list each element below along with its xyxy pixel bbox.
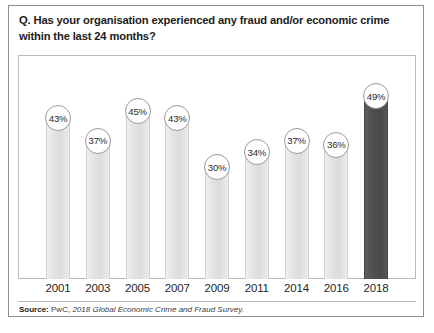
- bar-2011: [245, 152, 269, 279]
- bar-group: 37%: [276, 55, 318, 279]
- source-divider: [18, 301, 416, 302]
- axis-label-2001: 2001: [37, 282, 79, 294]
- value-bubble-2003: 37%: [85, 128, 111, 154]
- bar-2005: [126, 111, 150, 279]
- value-bubble-2011: 34%: [244, 139, 270, 165]
- bar-group: 43%: [37, 55, 79, 279]
- bar-2014: [285, 141, 309, 279]
- bar-group: 36%: [315, 55, 357, 279]
- bar-2007: [165, 118, 189, 279]
- axis-label-2009: 2009: [196, 282, 238, 294]
- source-label: Source:: [19, 305, 49, 314]
- bar-2018: [364, 96, 388, 279]
- value-bubble-2018: 49%: [363, 83, 389, 109]
- x-axis-labels: 200120032005200720092011201420162018: [18, 282, 416, 300]
- bars-layer: 43%37%45%43%30%34%37%36%49%: [18, 55, 416, 279]
- bar-2003: [86, 141, 110, 279]
- bar-2016: [324, 145, 348, 279]
- bar-group: 49%: [355, 55, 397, 279]
- axis-label-2018: 2018: [355, 282, 397, 294]
- bar-group: 45%: [117, 55, 159, 279]
- bar-2001: [46, 118, 70, 279]
- axis-label-2014: 2014: [276, 282, 318, 294]
- value-bubble-2005: 45%: [125, 98, 151, 124]
- axis-label-2016: 2016: [315, 282, 357, 294]
- bar-group: 34%: [236, 55, 278, 279]
- source-publisher: PwC,: [51, 305, 70, 314]
- source-note: Source: PwC, 2018 Global Economic Crime …: [19, 305, 244, 314]
- value-bubble-2014: 37%: [284, 128, 310, 154]
- chart-card: Q. Has your organisation experienced any…: [8, 5, 424, 317]
- value-bubble-2009: 30%: [204, 154, 230, 180]
- axis-label-2003: 2003: [77, 282, 119, 294]
- bar-group: 30%: [196, 55, 238, 279]
- bar-group: 43%: [156, 55, 198, 279]
- source-title: 2018 Global Economic Crime and Fraud Sur…: [72, 305, 244, 314]
- page-title: Q. Has your organisation experienced any…: [19, 13, 411, 44]
- axis-label-2007: 2007: [156, 282, 198, 294]
- axis-label-2005: 2005: [117, 282, 159, 294]
- bar-2009: [205, 167, 229, 279]
- axis-label-2011: 2011: [236, 282, 278, 294]
- value-bubble-2016: 36%: [323, 132, 349, 158]
- bar-group: 37%: [77, 55, 119, 279]
